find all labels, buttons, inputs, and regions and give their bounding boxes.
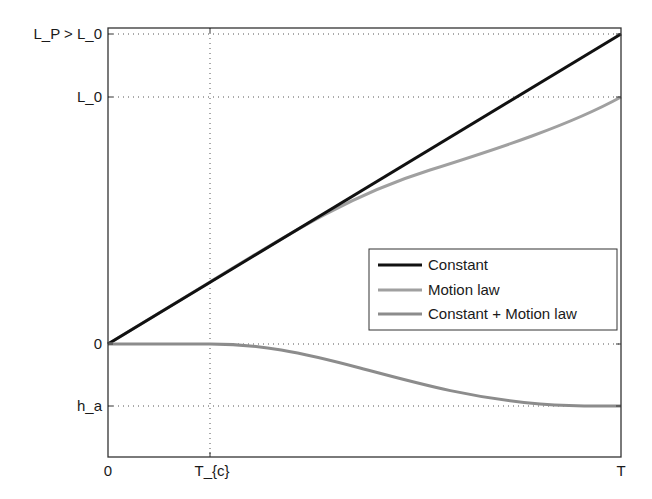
x-tick-label-t: T [616,462,625,479]
legend-label-constant-plus-motion-law: Constant + Motion law [428,305,577,322]
legend-label-constant: Constant [428,256,489,273]
y-tick-label-ha: h_a [77,397,103,414]
x-tick-label-tc: T_{c} [194,462,229,479]
y-tick-label-zero: 0 [94,335,102,352]
legend-label-motion-law: Motion law [428,281,500,298]
chart: L_P > L_0 L_0 0 h_a 0 T_{c} T Constant M… [0,0,652,499]
x-tick-label-zero: 0 [104,462,112,479]
y-tick-label-lp: L_P > L_0 [33,25,102,42]
legend: Constant Motion law Constant + Motion la… [369,249,617,330]
plot-area [108,28,621,457]
y-tick-label-l0: L_0 [77,88,102,105]
